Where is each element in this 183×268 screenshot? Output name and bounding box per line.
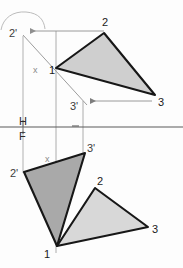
- label-3-top: 3: [158, 96, 164, 108]
- arc-rotation-indicator: [1, 12, 45, 30]
- label-horizontal-plane-h: H: [19, 115, 27, 127]
- label-2-prime-top: 2': [9, 27, 17, 39]
- ground-line-group: [0, 120, 183, 134]
- label-2-top: 2: [102, 16, 108, 28]
- label-1-front: 1: [44, 248, 50, 260]
- technical-drawing-canvas: 2' 2 1 3 3' x H F x 3' 2' 2 3 1: [0, 0, 183, 268]
- label-2-prime-front: 2': [10, 167, 18, 179]
- label-x-axis-upper: x: [33, 65, 38, 75]
- label-x-axis-lower: x: [45, 154, 50, 164]
- label-2-front: 2: [97, 175, 103, 187]
- top-view-triangle: [56, 33, 155, 95]
- label-frontal-plane-f: F: [19, 130, 26, 142]
- label-3-prime-front: 3': [87, 142, 95, 154]
- label-3-front: 3: [152, 223, 158, 235]
- label-3-prime-top: 3': [70, 100, 78, 112]
- label-1-top: 1: [49, 64, 55, 76]
- descriptive-geometry-drawing: 2' 2 1 3 3' x H F x 3' 2' 2 3 1: [0, 0, 183, 268]
